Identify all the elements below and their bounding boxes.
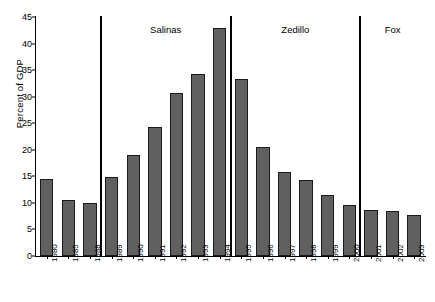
- bar-chart: Percent of GDP 051015202530354045Salinas…: [0, 0, 435, 302]
- x-axis-tick-label: 1985: [71, 244, 80, 262]
- y-axis-tick-mark: [32, 202, 36, 203]
- x-axis-tick-label: 1994: [223, 244, 232, 262]
- era-label-zedillo: Zedillo: [255, 24, 335, 35]
- x-axis-tick-mark: [371, 256, 372, 259]
- x-axis-tick-label: 2001: [374, 244, 383, 262]
- bar-1995: [235, 79, 248, 256]
- x-axis-tick-mark: [133, 256, 134, 259]
- bar-1996: [256, 147, 269, 256]
- y-axis-tick-mark: [32, 176, 36, 177]
- x-axis-tick-mark: [328, 256, 329, 259]
- era-label-salinas: Salinas: [126, 24, 206, 35]
- y-axis-tick-label: 30: [22, 92, 32, 102]
- x-axis-tick-label: 1991: [158, 244, 167, 262]
- zedillo-start-divider: [230, 16, 232, 256]
- x-axis-tick-label: 1988: [93, 244, 102, 262]
- x-axis-tick-label: 2002: [396, 244, 405, 262]
- bar-1992: [170, 93, 183, 256]
- x-axis-tick-label: 2000: [352, 244, 361, 262]
- x-axis-tick-label: 1992: [179, 244, 188, 262]
- x-axis-tick-label: 1999: [331, 244, 340, 262]
- y-axis-tick-mark: [32, 17, 36, 18]
- x-axis-tick-label: 1996: [266, 244, 275, 262]
- era-label-fox: Fox: [353, 24, 433, 35]
- y-axis-tick-label: 20: [22, 145, 32, 155]
- x-axis-tick-mark: [393, 256, 394, 259]
- x-axis-tick-mark: [285, 256, 286, 259]
- bar-1991: [148, 127, 161, 256]
- y-axis-tick-mark: [32, 123, 36, 124]
- y-axis-tick-label: 40: [22, 39, 32, 49]
- x-axis-tick-mark: [241, 256, 242, 259]
- x-axis-tick-label: 1998: [309, 244, 318, 262]
- x-axis-tick-mark: [155, 256, 156, 259]
- x-axis-tick-label: 1993: [201, 244, 210, 262]
- x-axis-tick-label: 1990: [136, 244, 145, 262]
- y-axis-tick-label: 45: [22, 12, 32, 22]
- y-axis-tick-mark: [32, 43, 36, 44]
- x-axis-tick-label: 1995: [244, 244, 253, 262]
- bar-1993: [191, 74, 204, 256]
- x-axis-tick-mark: [220, 256, 221, 259]
- y-axis-tick-label: 10: [22, 198, 32, 208]
- y-axis-tick-mark: [32, 70, 36, 71]
- x-axis-tick-mark: [90, 256, 91, 259]
- x-axis-tick-mark: [112, 256, 113, 259]
- y-axis-tick-label: 25: [22, 118, 32, 128]
- salinas-start-divider: [100, 16, 102, 256]
- y-axis-tick-mark: [32, 149, 36, 150]
- x-axis-tick-mark: [68, 256, 69, 259]
- x-axis-tick-mark: [349, 256, 350, 259]
- y-axis-tick-mark: [32, 256, 36, 257]
- x-axis-tick-label: 1980: [50, 244, 59, 262]
- x-axis-tick-mark: [414, 256, 415, 259]
- x-axis-tick-mark: [47, 256, 48, 259]
- y-axis-tick-label: 15: [22, 171, 32, 181]
- bar-1994: [213, 28, 226, 256]
- fox-start-divider: [359, 16, 361, 256]
- x-axis-tick-label: 1997: [288, 244, 297, 262]
- y-axis-tick-label: 35: [22, 65, 32, 75]
- x-axis-tick-label: 1989: [115, 244, 124, 262]
- x-axis-tick-mark: [198, 256, 199, 259]
- x-axis-tick-label: 2003: [417, 244, 426, 262]
- x-axis-tick-mark: [263, 256, 264, 259]
- plot-area: 051015202530354045SalinasZedilloFox: [36, 17, 425, 256]
- y-axis-tick-mark: [32, 229, 36, 230]
- x-axis-tick-mark: [176, 256, 177, 259]
- y-axis-tick-mark: [32, 96, 36, 97]
- bar-1990: [127, 155, 140, 256]
- x-axis-tick-mark: [306, 256, 307, 259]
